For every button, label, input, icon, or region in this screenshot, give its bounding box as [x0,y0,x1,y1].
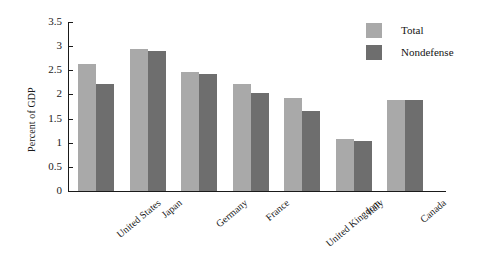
x-axis-label-japan: Japan [159,197,184,220]
x-axis-label-france: France [263,197,291,223]
legend-item-nondefense: Nondefense [366,41,454,63]
legend-label: Nondefense [401,46,454,58]
legend-swatch-nondefense [366,45,382,60]
legend-item-total: Total [366,19,454,41]
x-axis-label-canada: Canada [418,197,448,225]
legend-swatch-total [366,23,382,38]
chart-legend: TotalNondefense [366,19,454,63]
bar-chart: Percent of GDP 00.511.522.533.5 United S… [0,0,484,271]
x-axis-label-united-states: United States [115,197,163,240]
x-axis-label-germany: Germany [214,197,250,229]
legend-label: Total [401,24,423,36]
